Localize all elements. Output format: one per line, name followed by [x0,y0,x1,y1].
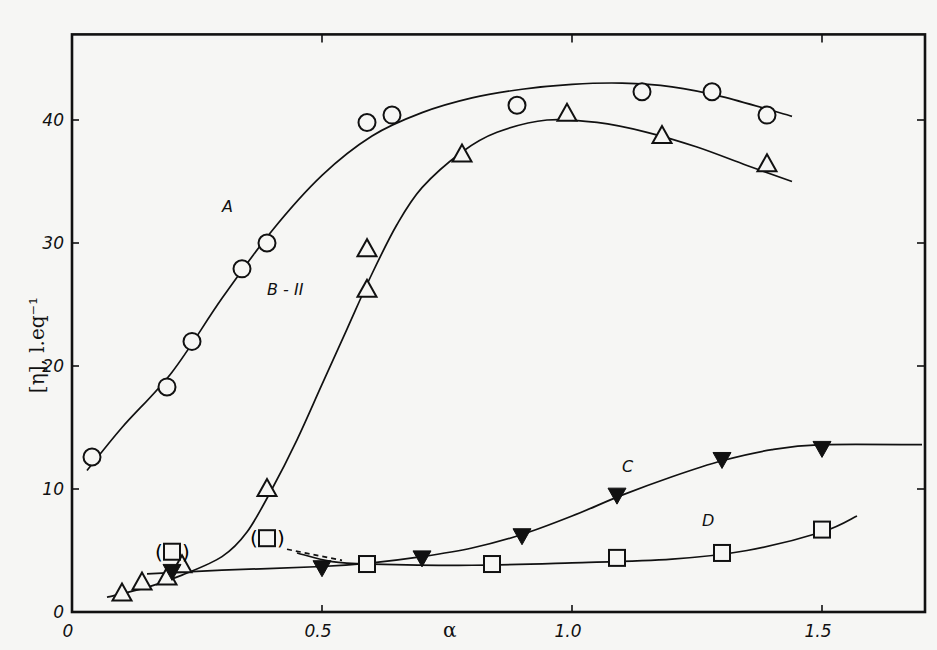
x-axis-title: α [443,618,457,642]
curve-d [297,516,857,565]
y-tick-label: 30 [42,233,64,253]
curve-labels: AB - IICD [221,197,714,530]
triangle-marker [558,104,577,121]
paren-open: ( [155,540,163,564]
triangle-marker [758,154,777,171]
circle-marker [234,260,251,277]
x-tick-label: 1.5 [804,621,831,641]
square-marker [714,545,730,561]
triangle-marker [358,280,377,297]
paren-close: ) [277,526,285,550]
filled-triangle-marker [813,441,831,457]
filled-triangle-marker [313,561,331,577]
curve-bii [107,119,792,597]
filled-triangle-marker [608,488,626,504]
curve-c [147,444,922,574]
curve-a [87,83,792,471]
square-marker [609,550,625,566]
circle-marker [509,97,526,114]
curve-label: B - II [267,280,304,299]
circle-marker [84,449,101,466]
y-tick-label: 40 [42,110,64,130]
fitted-curves [87,83,922,597]
circle-marker [259,235,276,252]
viscosity-chart: 00.51.01.5010203040 ()() AB - IICD α [η]… [0,0,937,650]
paren-open: ( [250,526,258,550]
y-tick-label: 0 [53,602,64,622]
circle-marker [359,114,376,131]
data-markers: ()() [84,83,832,600]
curve-label: A [221,197,233,216]
square-marker [259,530,275,546]
circle-marker [704,83,721,100]
x-tick-label: 1.0 [554,621,581,641]
triangle-marker [358,239,377,256]
square-marker [164,544,180,560]
y-tick-label: 10 [42,479,64,499]
plot-border [72,34,925,612]
triangle-marker [133,572,152,589]
square-marker [814,522,830,538]
circle-marker [159,378,176,395]
square-marker [359,556,375,572]
filled-triangle-marker [713,452,731,468]
square-marker [484,556,500,572]
paren-close: ) [182,540,190,564]
circle-marker [634,83,651,100]
x-tick-label: 0 [63,621,74,641]
plot-frame [72,34,925,612]
curve-label: D [702,511,714,530]
circle-marker [759,107,776,124]
curve-label: C [622,457,634,476]
dashed-extension [287,549,342,560]
x-tick-label: 0.5 [304,621,331,641]
circle-marker [384,107,401,124]
y-axis-title: [η], l.eq⁻¹ [25,297,49,393]
circle-marker [184,333,201,350]
